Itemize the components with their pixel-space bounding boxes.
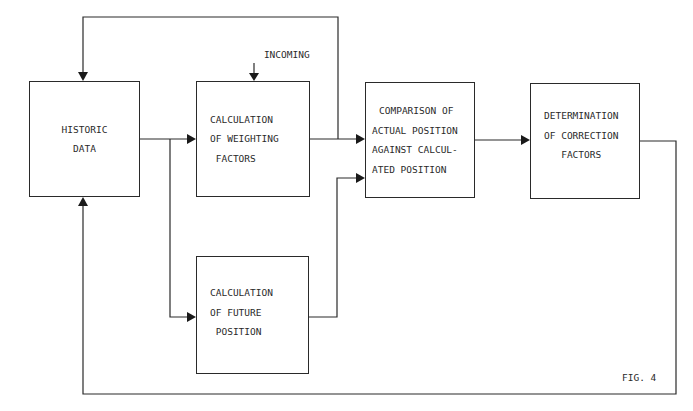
historic-to-future-line (170, 139, 188, 317)
block-label-line: ATED POSITION (372, 160, 474, 180)
block-label-line: COMPARISON OF (372, 101, 474, 121)
future-to-comparison-line (309, 178, 357, 317)
arrowhead-right-icon (187, 134, 196, 144)
arrowhead-right-icon (356, 134, 365, 144)
block-label-line: OF FUTURE (210, 303, 308, 323)
block-label-line: AGAINST CALCUL- (372, 140, 474, 160)
flow-diagram: INCOMING DATA HISTORIC DATA CALCULATION … (0, 0, 693, 411)
block-calculation-weighting-factors: CALCULATION OF WEIGHTING FACTORS (196, 81, 310, 197)
block-label-line: HISTORIC (62, 120, 108, 140)
connector-lines (0, 0, 693, 411)
block-label-line: DATA (73, 139, 96, 159)
incoming-data-label-line: INCOMING (264, 49, 310, 60)
arrowhead-up-icon (78, 197, 88, 206)
block-label-line: ACTUAL POSITION (372, 121, 474, 141)
block-label-line: POSITION (210, 322, 308, 342)
block-label-line: CALCULATION (210, 283, 308, 303)
block-label-line: DETERMINATION (544, 106, 639, 126)
block-historic-data: HISTORIC DATA (29, 81, 140, 197)
block-label-line: FACTORS (210, 149, 309, 169)
arrowhead-right-icon (521, 135, 530, 145)
arrowhead-down-icon (78, 72, 88, 81)
block-label-line: FACTORS (544, 145, 639, 165)
arrowhead-right-icon (187, 312, 196, 322)
block-comparison-actual-vs-calculated: COMPARISON OF ACTUAL POSITION AGAINST CA… (365, 82, 475, 198)
block-determination-correction-factors: DETERMINATION OF CORRECTION FACTORS (530, 83, 640, 199)
block-calculation-future-position: CALCULATION OF FUTURE POSITION (196, 256, 309, 374)
figure-caption: FIG. 4 (622, 368, 656, 388)
block-label-line: OF WEIGHTING (210, 129, 309, 149)
block-label-line: OF CORRECTION (544, 126, 639, 146)
block-label-line: CALCULATION (210, 110, 309, 130)
arrowhead-right-icon (356, 173, 365, 183)
